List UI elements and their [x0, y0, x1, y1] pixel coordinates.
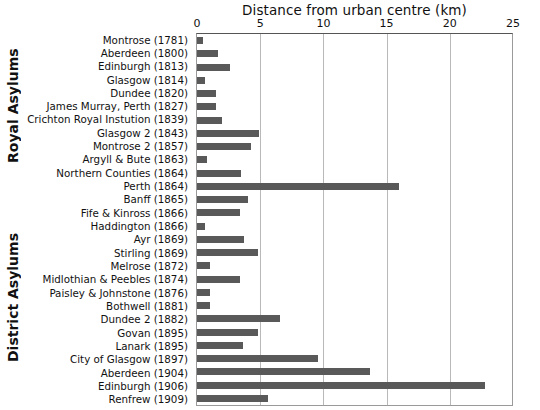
category-label: Glasgow (1814) [26, 73, 192, 86]
bar [197, 64, 230, 71]
bar-row [197, 326, 512, 339]
x-axis-tick-label: 25 [506, 17, 520, 30]
bar-row [197, 379, 512, 392]
category-label: Dundee (1820) [26, 86, 192, 99]
bar [197, 368, 370, 375]
bar [197, 223, 205, 230]
bar-row [197, 114, 512, 127]
bar-row [197, 127, 512, 140]
category-label: Glasgow 2 (1843) [26, 126, 192, 139]
bar [197, 329, 258, 336]
bar-row [197, 61, 512, 74]
bar-row [197, 153, 512, 166]
category-label: Perth (1864) [26, 180, 192, 193]
bar-row [197, 339, 512, 352]
bar-row [197, 34, 512, 47]
category-label: Edinburgh (1813) [26, 60, 192, 73]
bar-row [197, 167, 512, 180]
bar [197, 103, 216, 110]
bar [197, 315, 280, 322]
category-label: Stirling (1869) [26, 246, 192, 259]
bar [197, 90, 216, 97]
bar [197, 262, 210, 269]
bar [197, 249, 258, 256]
bar [197, 156, 207, 163]
bar-row [197, 273, 512, 286]
category-label: Paisley & Johnstone (1876) [26, 286, 192, 299]
bar [197, 382, 485, 389]
category-label: Bothwell (1881) [26, 300, 192, 313]
bar [197, 37, 203, 44]
category-label: Haddington (1866) [26, 220, 192, 233]
bar [197, 209, 240, 216]
bar-row [197, 74, 512, 87]
bar-row [197, 193, 512, 206]
category-label: Northern Counties (1864) [26, 166, 192, 179]
category-label: Govan (1895) [26, 326, 192, 339]
bar-row [197, 352, 512, 365]
bar-row [197, 100, 512, 113]
bar-row [197, 312, 512, 325]
bar-row [197, 206, 512, 219]
bar-row [197, 299, 512, 312]
category-label: Renfrew (1909) [26, 393, 192, 406]
x-axis-tick-label: 5 [257, 17, 264, 30]
category-label: Montrose (1781) [26, 33, 192, 46]
bar-row [197, 392, 512, 405]
bar-row [197, 259, 512, 272]
category-label: Montrose 2 (1857) [26, 140, 192, 153]
bar [197, 50, 218, 57]
category-label: James Murray, Perth (1827) [26, 100, 192, 113]
bar-row [197, 246, 512, 259]
x-axis-tick-label: 15 [380, 17, 394, 30]
bar [197, 170, 241, 177]
bar [197, 130, 259, 137]
x-axis-tick-label: 0 [194, 17, 201, 30]
category-label: Dundee 2 (1882) [26, 313, 192, 326]
chart-title: Distance from urban centre (km) [196, 2, 513, 18]
bar [197, 183, 399, 190]
category-label: Banff (1865) [26, 193, 192, 206]
category-label: Aberdeen (1800) [26, 46, 192, 59]
category-label: Crichton Royal Instution (1839) [26, 113, 192, 126]
bar-row [197, 180, 512, 193]
category-label-column: Montrose (1781)Aberdeen (1800)Edinburgh … [26, 33, 192, 406]
x-axis-tick-label: 20 [443, 17, 457, 30]
category-label: Aberdeen (1904) [26, 366, 192, 379]
category-label: Ayr (1869) [26, 233, 192, 246]
category-label: Melrose (1872) [26, 260, 192, 273]
bar-row [197, 140, 512, 153]
category-label: Midlothian & Peebles (1874) [26, 273, 192, 286]
bar [197, 143, 251, 150]
bar [197, 77, 205, 84]
bar-row [197, 220, 512, 233]
category-label: Edinburgh (1906) [26, 380, 192, 393]
category-label: City of Glasgow (1897) [26, 353, 192, 366]
group-caption-district-asylums: District Asylums [0, 190, 26, 406]
category-label: Fife & Kinross (1866) [26, 206, 192, 219]
bar [197, 355, 318, 362]
bar-row [197, 286, 512, 299]
bar [197, 236, 244, 243]
bar-row [197, 365, 512, 378]
x-axis-tick-label: 10 [316, 17, 330, 30]
plot-area: 0510152025 [196, 33, 513, 406]
bar [197, 276, 240, 283]
bar-chart: Distance from urban centre (km) Royal As… [0, 0, 540, 410]
category-label: Argyll & Bute (1863) [26, 153, 192, 166]
bar [197, 395, 268, 402]
bar-rows [197, 34, 512, 405]
group-caption-royal-asylums: Royal Asylums [0, 33, 26, 179]
bar [197, 196, 248, 203]
bar [197, 117, 222, 124]
bar-row [197, 87, 512, 100]
bar [197, 302, 210, 309]
bar-row [197, 233, 512, 246]
category-label: Lanark (1895) [26, 340, 192, 353]
bar-row [197, 47, 512, 60]
bar [197, 342, 243, 349]
bar [197, 289, 210, 296]
